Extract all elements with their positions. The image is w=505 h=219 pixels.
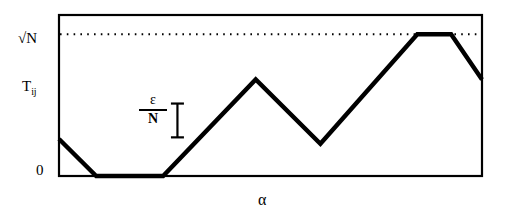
y-axis-label-tij-subscript: ij <box>31 86 36 97</box>
fraction-numerator-epsilon: ε <box>139 93 167 109</box>
epsilon-over-n-fraction: ε N <box>139 93 167 126</box>
fraction-denominator-n: N <box>139 111 167 127</box>
x-axis-label-alpha: α <box>258 192 266 208</box>
figure-canvas <box>0 0 505 219</box>
y-axis-label-sqrt-n: √N <box>18 31 37 46</box>
y-axis-label-tij-base: T <box>22 78 31 94</box>
y-axis-label-tij: Tij <box>22 79 36 97</box>
y-axis-label-zero: 0 <box>36 163 44 178</box>
